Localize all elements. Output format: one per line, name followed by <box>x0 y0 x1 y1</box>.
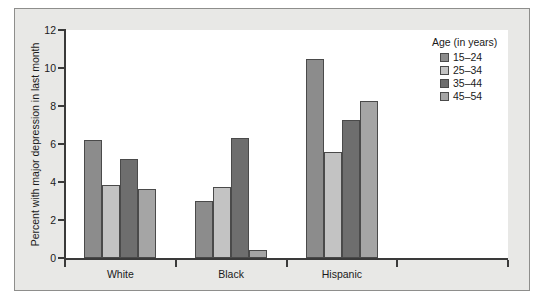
legend-item-15-24: 15–24 <box>440 51 497 63</box>
bar-hispanic-45-54 <box>360 101 378 258</box>
bar-black-25-34 <box>213 187 231 258</box>
bar-white-25-34 <box>102 185 120 258</box>
x-label-black: Black <box>218 268 244 280</box>
bar-white-45-54 <box>138 189 156 258</box>
legend-swatch-icon <box>440 53 449 62</box>
legend-swatch-icon <box>440 66 449 75</box>
legend-item-25-34: 25–34 <box>440 64 497 76</box>
x-label-white: White <box>107 268 134 280</box>
bar-hispanic-25-34 <box>324 152 342 258</box>
y-tick-0 <box>58 257 65 259</box>
legend-label: 35–44 <box>453 77 482 89</box>
y-tick-10 <box>58 67 65 69</box>
bar-chart-figure: 024681012 Percent with major depression … <box>0 0 542 301</box>
legend-item-45-54: 45–54 <box>440 90 497 102</box>
y-tick-4 <box>58 181 65 183</box>
bar-black-45-54 <box>249 250 267 258</box>
x-tick-0 <box>64 260 66 267</box>
y-tick-6 <box>58 143 65 145</box>
x-tick-1 <box>175 260 177 267</box>
x-tick-4 <box>507 260 509 267</box>
bar-hispanic-35-44 <box>342 120 360 258</box>
y-tick-12 <box>58 29 65 31</box>
y-axis-title: Percent with major depression in last mo… <box>28 30 42 259</box>
x-tick-2 <box>286 260 288 267</box>
legend-label: 25–34 <box>453 64 482 76</box>
bar-white-35-44 <box>120 159 138 258</box>
legend-entries: 15–2425–3435–4445–54 <box>432 51 497 102</box>
bar-black-15-24 <box>195 201 213 258</box>
legend-swatch-icon <box>440 92 449 101</box>
bar-hispanic-15-24 <box>306 59 324 259</box>
bar-white-15-24 <box>84 140 102 258</box>
x-label-hispanic: Hispanic <box>322 268 362 280</box>
legend-item-35-44: 35–44 <box>440 77 497 89</box>
legend-label: 15–24 <box>453 51 482 63</box>
legend-swatch-icon <box>440 79 449 88</box>
y-tick-8 <box>58 105 65 107</box>
y-tick-2 <box>58 219 65 221</box>
legend-label: 45–54 <box>453 90 482 102</box>
x-tick-3 <box>396 260 398 267</box>
legend-title: Age (in years) <box>432 36 497 48</box>
bar-black-35-44 <box>231 138 249 258</box>
legend: Age (in years) 15–2425–3435–4445–54 <box>432 36 497 103</box>
